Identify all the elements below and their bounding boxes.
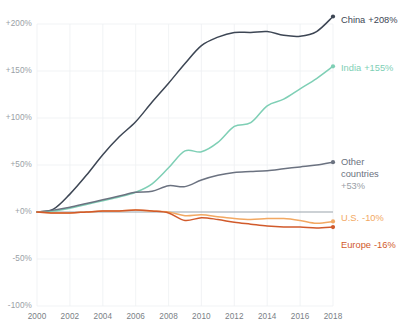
endpoint-dot-europe bbox=[331, 225, 335, 229]
line-chart: +200% +150% +100% +50% +0% -50% -100% 20… bbox=[0, 0, 409, 335]
y-tick-50: +50% bbox=[10, 160, 32, 169]
label-india-name: India bbox=[341, 63, 362, 73]
label-china-value: +208% bbox=[368, 15, 397, 25]
series-annotations: China+208% India+155% Other countries +5… bbox=[341, 15, 398, 250]
y-tick-150: +150% bbox=[6, 66, 32, 75]
horizontal-gridlines bbox=[37, 24, 333, 306]
x-tick-2002: 2002 bbox=[61, 312, 80, 321]
x-tick-2000: 2000 bbox=[28, 312, 47, 321]
label-other-line1: Other bbox=[341, 157, 364, 167]
series-lines bbox=[37, 16, 333, 228]
label-other-line2: countries bbox=[341, 169, 379, 179]
x-axis-tick-labels: 2000 2002 2004 2006 2008 2010 2012 2014 … bbox=[28, 312, 343, 321]
y-axis-tick-labels: +200% +150% +100% +50% +0% -50% -100% bbox=[6, 19, 32, 310]
label-europe-value: -16% bbox=[374, 240, 396, 250]
x-tick-2014: 2014 bbox=[258, 312, 277, 321]
y-tick-0: +0% bbox=[15, 207, 32, 216]
label-europe: Europe-16% bbox=[341, 240, 396, 250]
endpoint-dot-u-s bbox=[331, 219, 335, 223]
y-tick-200: +200% bbox=[6, 19, 32, 28]
label-europe-name: Europe bbox=[341, 240, 371, 250]
label-china: China+208% bbox=[341, 15, 398, 25]
label-india: India+155% bbox=[341, 63, 393, 73]
x-tick-2006: 2006 bbox=[126, 312, 145, 321]
x-tick-2012: 2012 bbox=[225, 312, 244, 321]
y-tick-m50: -50% bbox=[12, 254, 32, 263]
x-tick-2010: 2010 bbox=[192, 312, 211, 321]
x-tick-2018: 2018 bbox=[324, 312, 343, 321]
endpoint-dot-other-countries bbox=[331, 160, 335, 164]
label-us-value: -10% bbox=[362, 213, 384, 223]
label-us-name: U.S. bbox=[341, 213, 359, 223]
label-us: U.S.-10% bbox=[341, 213, 384, 223]
x-tick-2008: 2008 bbox=[159, 312, 178, 321]
chart-canvas: +200% +150% +100% +50% +0% -50% -100% 20… bbox=[0, 0, 409, 335]
endpoint-dot-india bbox=[331, 64, 335, 68]
x-tick-2004: 2004 bbox=[93, 312, 112, 321]
series-line-other-countries bbox=[37, 162, 333, 212]
series-line-india bbox=[37, 66, 333, 212]
label-india-value: +155% bbox=[364, 63, 393, 73]
y-tick-m100: -100% bbox=[8, 301, 32, 310]
x-tick-2016: 2016 bbox=[291, 312, 310, 321]
label-china-name: China bbox=[341, 15, 366, 25]
series-line-china bbox=[37, 16, 333, 212]
endpoint-dot-china bbox=[331, 14, 335, 18]
y-tick-100: +100% bbox=[6, 113, 32, 122]
label-other-value: +53% bbox=[341, 181, 365, 191]
